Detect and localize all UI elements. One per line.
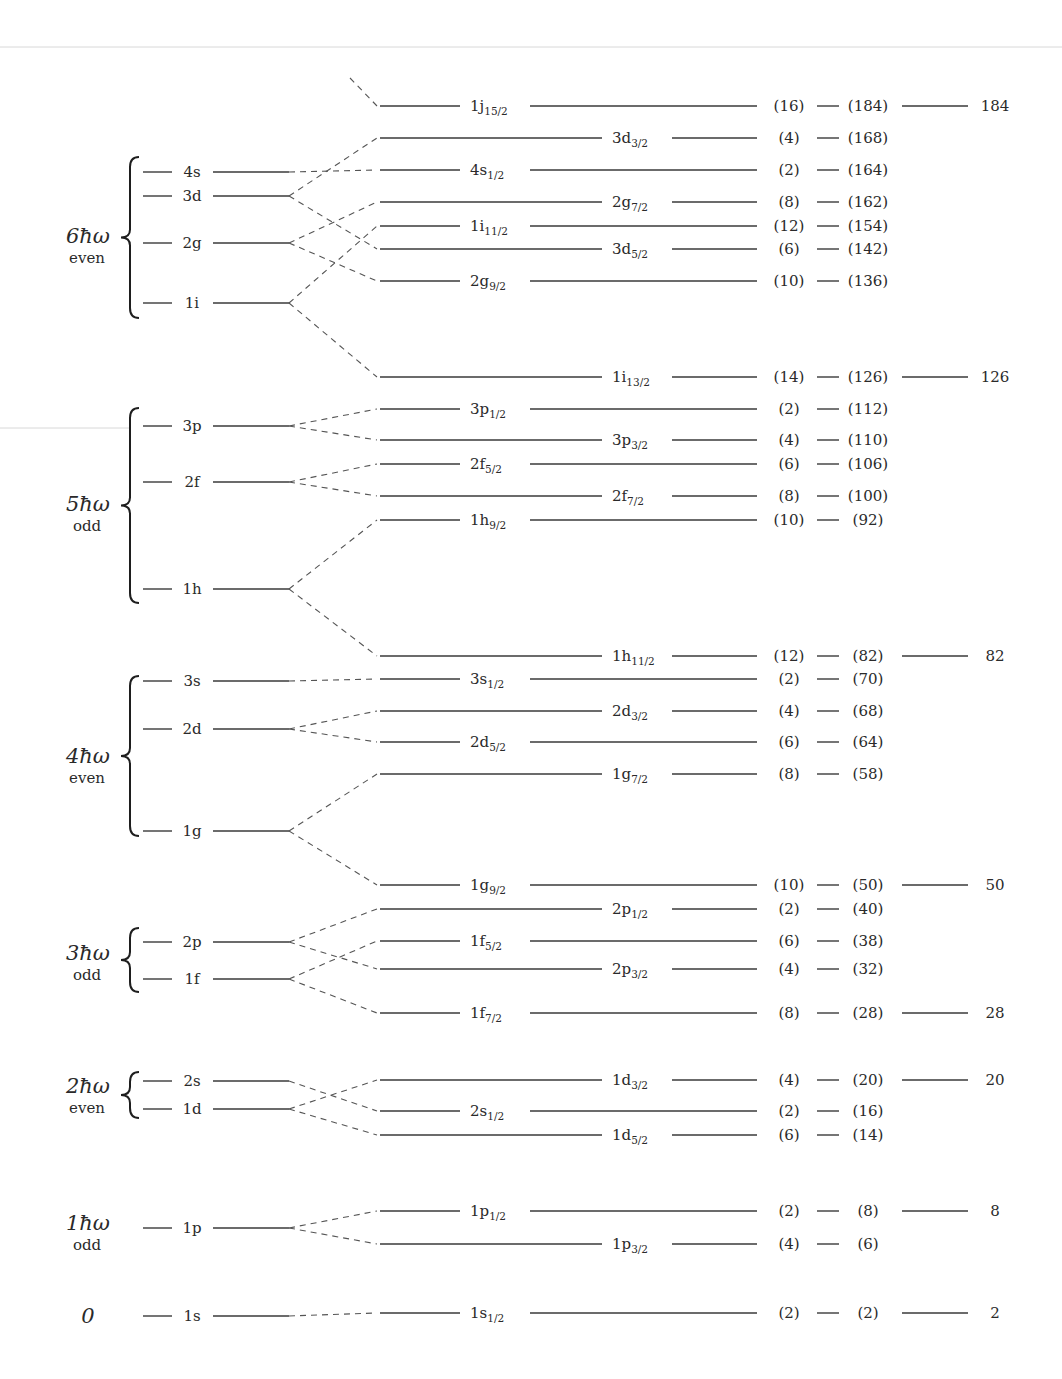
magic-number: 82 (985, 647, 1004, 665)
level-label: 1d (182, 1100, 202, 1118)
sublevel-1f-7-2: 1f7/2(8)(28)28 (380, 1004, 1005, 1024)
degeneracy-value: (4) (778, 431, 799, 449)
split-connector (289, 464, 377, 482)
cumulative-count: (106) (848, 455, 888, 473)
cumulative-count: (8) (857, 1202, 878, 1220)
cumulative-count: (162) (848, 193, 888, 211)
sublevel-1g-7-2: 1g7/2(8)(58) (380, 765, 883, 785)
oscillator-level-2g: 2g (143, 234, 289, 252)
degeneracy-value: (8) (778, 487, 799, 505)
sublevel-label: 1p3/2 (612, 1235, 648, 1255)
split-connector (289, 170, 377, 172)
sublevel-label: 1s1/2 (470, 1304, 504, 1324)
sublevel-label: 2f7/2 (612, 487, 644, 507)
cumulative-count: (168) (848, 129, 888, 147)
oscillator-level-2d: 2d (143, 720, 289, 738)
shell-group: 6ħωeven (66, 157, 139, 318)
oscillator-level-4s: 4s (143, 163, 289, 181)
degeneracy-value: (4) (778, 129, 799, 147)
parity-label: even (69, 769, 105, 787)
sublevel-2p-1-2: 2p1/2(2)(40) (380, 900, 883, 920)
cumulative-count: (32) (853, 960, 884, 978)
brace-icon (121, 1072, 139, 1118)
sublevel-3p-3-2: 3p3/2(4)(110) (380, 431, 888, 451)
split-connector (289, 1080, 377, 1109)
shell-group: 5ħωodd (66, 408, 139, 603)
level-label: 2f (184, 473, 201, 491)
splitting-connectors (289, 78, 377, 1316)
oscillator-level-1f: 1f (143, 970, 289, 988)
split-connector (289, 138, 377, 196)
sublevel-1j-15-2: 1j15/2(16)(184)184 (380, 97, 1009, 117)
degeneracy-value: (8) (778, 193, 799, 211)
degeneracy-value: (6) (778, 733, 799, 751)
sublevel-label: 3p1/2 (470, 400, 506, 420)
energy-label: 1ħω (66, 1211, 110, 1235)
cumulative-count: (38) (853, 932, 884, 950)
brace-icon (121, 157, 139, 318)
sublevel-3d-5-2: 3d5/2(6)(142) (380, 240, 888, 260)
split-connector (289, 729, 377, 742)
magic-number: 50 (985, 876, 1004, 894)
degeneracy-value: (16) (774, 97, 805, 115)
degeneracy-value: (4) (778, 702, 799, 720)
sublevel-2f-5-2: 2f5/2(6)(106) (380, 455, 888, 475)
level-label: 1p (182, 1219, 201, 1237)
energy-label: 5ħω (66, 492, 110, 516)
cumulative-count: (112) (848, 400, 888, 418)
degeneracy-value: (14) (774, 368, 805, 386)
sublevel-label: 1g9/2 (470, 876, 506, 896)
level-label: 1g (182, 822, 202, 840)
cumulative-count: (64) (853, 733, 884, 751)
sublevel-1i-13-2: 1i13/2(14)(126)126 (380, 368, 1009, 388)
cumulative-count: (92) (853, 511, 884, 529)
sublevel-1s-1-2: 1s1/2(2)(2)2 (380, 1304, 1000, 1324)
cumulative-count: (2) (857, 1304, 878, 1322)
degeneracy-value: (8) (778, 1004, 799, 1022)
sublevel-4s-1-2: 4s1/2(2)(164) (380, 161, 888, 181)
level-label: 2d (182, 720, 202, 738)
sublevel-label: 2d5/2 (470, 733, 506, 753)
split-connector (350, 78, 377, 106)
oscillator-level-1i: 1i (143, 294, 289, 312)
sublevel-label: 2s1/2 (470, 1102, 504, 1122)
sublevel-label: 2g7/2 (612, 193, 648, 213)
energy-label: 3ħω (66, 941, 110, 965)
energy-label: 6ħω (66, 224, 110, 248)
sublevel-label: 3s1/2 (470, 670, 504, 690)
degeneracy-value: (4) (778, 1071, 799, 1089)
oscillator-level-1h: 1h (143, 580, 289, 598)
sublevel-label: 1i13/2 (612, 368, 650, 388)
magic-number: 20 (985, 1071, 1004, 1089)
sublevel-label: 1i11/2 (470, 217, 508, 237)
sublevel-label: 1g7/2 (612, 765, 648, 785)
sublevel-3d-3-2: 3d3/2(4)(168) (380, 129, 888, 149)
sublevel-label: 2f5/2 (470, 455, 502, 475)
cumulative-count: (154) (848, 217, 888, 235)
cumulative-count: (16) (853, 1102, 884, 1120)
cumulative-count: (126) (848, 368, 888, 386)
oscillator-levels: 1s1p1d2s1f2p1g2d3s1h2f3p1i2g3d4s (143, 163, 289, 1325)
degeneracy-value: (2) (778, 400, 799, 418)
sublevel-2g-7-2: 2g7/2(8)(162) (380, 193, 888, 213)
split-connector (289, 1081, 377, 1111)
split-connector (289, 941, 377, 979)
sublevel-label: 2d3/2 (612, 702, 648, 722)
level-label: 1s (183, 1307, 200, 1325)
sublevel-label: 1h9/2 (470, 511, 506, 531)
degeneracy-value: (10) (774, 511, 805, 529)
degeneracy-value: (10) (774, 876, 805, 894)
cumulative-count: (20) (853, 1071, 884, 1089)
degeneracy-value: (6) (778, 1126, 799, 1144)
sublevel-1d-5-2: 1d5/2(6)(14) (380, 1126, 883, 1146)
sublevel-2d-3-2: 2d3/2(4)(68) (380, 702, 883, 722)
split-connector (289, 426, 377, 440)
cumulative-count: (14) (853, 1126, 884, 1144)
parity-label: odd (73, 966, 102, 984)
oscillator-level-2s: 2s (143, 1072, 289, 1090)
sublevel-2p-3-2: 2p3/2(4)(32) (380, 960, 883, 980)
split-connector (289, 243, 377, 281)
sublevel-1g-9-2: 1g9/2(10)(50)50 (380, 876, 1005, 896)
oscillator-level-3d: 3d (143, 187, 289, 205)
sublevel-1p-3-2: 1p3/2(4)(6) (380, 1235, 879, 1255)
